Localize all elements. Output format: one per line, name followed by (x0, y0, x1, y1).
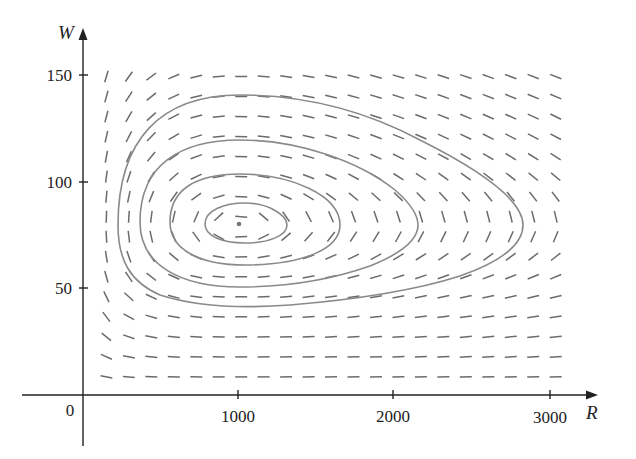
direction-segment (529, 173, 538, 181)
direction-segment (126, 131, 132, 142)
direction-segment (370, 316, 382, 317)
direction-segment (146, 294, 157, 299)
direction-segment (505, 357, 517, 358)
direction-segment (280, 136, 292, 138)
direction-segment (416, 254, 426, 260)
direction-segment (169, 173, 178, 181)
direction-segment (105, 151, 107, 163)
direction-segment (505, 316, 517, 318)
direction-segment (527, 357, 539, 358)
direction-segment (527, 316, 539, 318)
direction-segment (147, 113, 156, 121)
direction-segment (348, 337, 360, 338)
direction-segment (168, 336, 180, 337)
direction-segment (370, 95, 382, 98)
direction-segment (437, 357, 449, 358)
direction-segment (393, 174, 403, 180)
direction-segment (396, 232, 402, 243)
direction-segment (528, 275, 539, 280)
direction-segment (280, 175, 292, 178)
direction-segment (482, 316, 494, 318)
direction-segment (552, 192, 559, 202)
direction-segment (528, 114, 539, 119)
direction-segment (150, 231, 153, 243)
direction-segment (258, 297, 270, 298)
equilibrium-point (237, 222, 242, 227)
direction-segment (348, 75, 360, 78)
direction-segment (258, 76, 270, 77)
direction-segment (551, 253, 560, 260)
direction-segment (393, 275, 405, 279)
direction-segment (326, 193, 336, 200)
direction-segment (213, 76, 225, 77)
direction-segment (124, 314, 135, 320)
direction-segment (482, 357, 494, 358)
x-axis-label: R (585, 402, 598, 423)
direction-segment (106, 171, 108, 183)
direction-segment (147, 273, 156, 280)
direction-segment (191, 174, 202, 179)
direction-segment (280, 317, 292, 318)
direction-segment (374, 211, 378, 222)
direction-segment (349, 193, 358, 201)
direction-segment (419, 211, 422, 223)
orbit-4 (118, 95, 523, 307)
direction-segment (258, 234, 269, 239)
direction-segment (106, 231, 107, 243)
direction-segment (325, 296, 337, 298)
direction-segment (460, 134, 471, 139)
direction-segment (415, 296, 427, 298)
direction-segment (191, 193, 201, 200)
direction-segment (190, 75, 202, 78)
direction-segment (392, 336, 404, 337)
direction-segment (105, 111, 108, 123)
direction-segment (147, 93, 156, 101)
direction-segment (191, 155, 202, 159)
direction-segment (462, 192, 470, 201)
direction-segment (325, 135, 337, 138)
direction-segment (258, 156, 270, 158)
direction-segment (527, 336, 539, 337)
direction-segment (505, 336, 517, 337)
direction-segment (190, 296, 202, 298)
direction-segment (441, 231, 446, 242)
direction-segment (303, 316, 315, 317)
direction-segment (190, 95, 202, 98)
direction-segment (482, 336, 494, 337)
direction-segment (532, 211, 535, 223)
direction-segment (151, 211, 153, 223)
direction-segment (460, 336, 472, 337)
direction-segment (530, 192, 537, 201)
direction-segment (417, 192, 425, 201)
direction-segment (550, 295, 562, 298)
direction-segment (214, 213, 223, 221)
direction-segment (325, 95, 337, 98)
direction-segment (372, 193, 381, 201)
direction-segment (463, 231, 468, 242)
direction-segment (148, 152, 156, 161)
direction-segment (213, 156, 225, 158)
direction-segment (235, 216, 247, 217)
direction-segment (191, 115, 203, 118)
direction-segment (483, 75, 494, 79)
direction-segment (280, 76, 292, 78)
direction-segment (325, 316, 337, 317)
direction-segment (442, 211, 445, 223)
direction-segment (487, 211, 490, 223)
direction-segment (528, 154, 538, 160)
direction-segment (348, 254, 359, 259)
direction-segment (350, 232, 357, 242)
direction-segment (280, 255, 292, 258)
direction-segment (326, 254, 337, 259)
direction-segment (127, 171, 131, 182)
direction-segment (213, 256, 225, 258)
direction-segment (235, 236, 247, 237)
direction-segment (147, 132, 155, 141)
direction-segment (303, 95, 315, 97)
direction-segment (550, 94, 561, 99)
direction-segment (438, 134, 449, 139)
direction-segment (258, 195, 270, 198)
direction-segment (145, 336, 157, 338)
direction-segment (483, 114, 494, 119)
x-axis-arrow-icon (586, 391, 598, 400)
